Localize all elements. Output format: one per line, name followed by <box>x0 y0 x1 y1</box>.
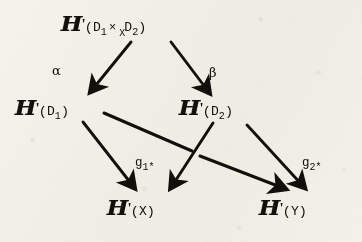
times-operator: × <box>107 21 118 35</box>
fraktur-H-glyph: H <box>259 198 280 218</box>
arrow-D1-to-X <box>83 122 133 186</box>
node-H-prime-Y: H'(Y) <box>260 198 307 219</box>
g-star: * <box>149 162 155 173</box>
open-paren: ( <box>85 20 93 35</box>
edge-label-g1-star: g1* <box>135 153 155 170</box>
g-subscript: 1 <box>143 162 149 173</box>
arg-X: X <box>139 204 147 219</box>
arg-D-subscript: 2 <box>219 111 225 122</box>
open-paren: ( <box>283 204 291 219</box>
close-paren: ) <box>138 20 146 35</box>
arrow-top-to-D2 <box>171 42 208 91</box>
arrow-D1-to-Y <box>200 156 283 188</box>
arg-D: D <box>47 104 55 119</box>
close-paren: ) <box>299 204 307 219</box>
g-letter: g <box>135 156 143 170</box>
arg-D: D <box>211 104 219 119</box>
close-paren: ) <box>147 204 155 219</box>
fraktur-H-glyph: H <box>107 198 128 218</box>
g-letter: g <box>302 156 310 170</box>
node-H-prime-X: H'(X) <box>108 198 155 219</box>
open-paren: ( <box>203 104 211 119</box>
open-paren: ( <box>39 104 47 119</box>
close-paren: ) <box>225 104 233 119</box>
arg-Y: Y <box>291 204 299 219</box>
fraktur-H-glyph: H <box>179 98 200 118</box>
g-subscript: 2 <box>310 162 316 173</box>
node-H-prime-D1-times-X-D2: H'(D1×XD2) <box>62 14 147 35</box>
edge-label-beta: β <box>209 66 217 79</box>
times-subscript-X: X <box>119 28 125 39</box>
edge-label-alpha: α <box>52 64 61 77</box>
arg-D1: D <box>93 20 101 35</box>
scanned-page: H'(D1×XD2) H'(D1) H'(D2) H'(X) H'(Y) α β… <box>0 0 362 242</box>
g-star: * <box>316 162 322 173</box>
arrow-D2-to-X <box>172 123 213 186</box>
edge-label-g2-star: g2* <box>302 153 322 170</box>
close-paren: ) <box>61 104 69 119</box>
node-H-prime-D2: H'(D2) <box>180 98 233 119</box>
open-paren: ( <box>131 204 139 219</box>
arrow-top-to-D1 <box>92 42 131 90</box>
fraktur-H-glyph: H <box>61 14 82 34</box>
arg-D1-subscript: 1 <box>101 27 107 38</box>
node-H-prime-D1: H'(D1) <box>16 98 69 119</box>
fraktur-H-glyph: H <box>15 98 36 118</box>
arg-D-subscript: 1 <box>55 111 61 122</box>
